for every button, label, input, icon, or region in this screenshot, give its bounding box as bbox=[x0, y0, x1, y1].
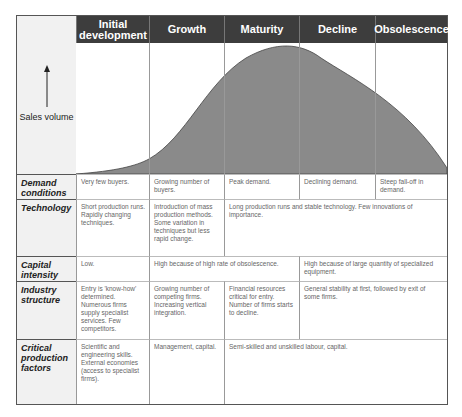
row-label-critical: Critical production factors bbox=[17, 339, 76, 404]
header-initial-development: Initial development bbox=[76, 16, 149, 43]
row-label-industry: Industry structure bbox=[17, 281, 76, 339]
cell: Scientific and engineering skills. Exter… bbox=[76, 339, 149, 404]
cell: Low. bbox=[76, 256, 149, 281]
row-label-technology: Technology bbox=[17, 199, 76, 256]
header-growth: Growth bbox=[149, 16, 224, 43]
header-obsolescence: Obsolescence bbox=[375, 16, 447, 43]
cell: High because of high rate of obsolescenc… bbox=[149, 256, 299, 281]
cell: Entry is 'know-how' determined. Numerous… bbox=[76, 281, 149, 339]
up-arrow-icon bbox=[43, 65, 51, 107]
header-decline: Decline bbox=[299, 16, 375, 43]
header-corner bbox=[17, 16, 76, 43]
cell: Financial resources critical for entry. … bbox=[224, 281, 299, 339]
sales-curve bbox=[76, 43, 447, 174]
row-label-capital: Capital intensity bbox=[17, 256, 76, 281]
y-axis-label: Sales volume bbox=[17, 112, 76, 122]
cell: Steep fall-off in demand. bbox=[375, 174, 447, 199]
cell: Introduction of mass production methods.… bbox=[149, 199, 224, 256]
cell: Management, capital. bbox=[149, 339, 224, 404]
cell: Very few buyers. bbox=[76, 174, 149, 199]
row-label-demand: Demand conditions bbox=[17, 174, 76, 199]
cell: Short production runs. Rapidly changing … bbox=[76, 199, 149, 256]
cell: Growing number of competing firms. Incre… bbox=[149, 281, 224, 339]
y-axis-panel: Sales volume bbox=[17, 43, 76, 174]
cell: General stability at first, followed by … bbox=[299, 281, 447, 339]
cell: Peak demand. bbox=[224, 174, 299, 199]
header-maturity: Maturity bbox=[224, 16, 299, 43]
cell: Long production runs and stable technolo… bbox=[224, 199, 447, 256]
cell: Semi-skilled and unskilled labour, capit… bbox=[224, 339, 447, 404]
cell: Declining demand. bbox=[299, 174, 375, 199]
cell: Growing number of buyers. bbox=[149, 174, 224, 199]
product-life-cycle-table: Initial development Growth Maturity Decl… bbox=[16, 15, 448, 405]
cell: High because of large quantity of specia… bbox=[299, 256, 447, 281]
